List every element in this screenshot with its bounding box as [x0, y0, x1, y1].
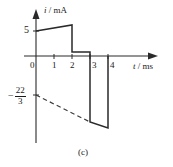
- x-tick-label-0: 0: [30, 61, 35, 70]
- fraction: 22 3: [15, 86, 26, 106]
- y-axis-label-sep: /: [47, 5, 54, 15]
- minus-sign: −: [8, 91, 14, 101]
- y-axis-label-unit: mA: [54, 5, 68, 15]
- fraction-denominator: 3: [17, 97, 24, 106]
- figure-caption: (c): [78, 148, 88, 157]
- y-tick-label-negative-22-over-3: − 22 3: [8, 86, 26, 106]
- asymptote-dashed-line: [36, 95, 90, 122]
- y-axis-label: i / mA: [44, 6, 67, 15]
- figure-container: i / mA t / ms 5 0 1 2 3 4 − 22 3 (c): [0, 0, 173, 167]
- x-axis: [24, 52, 158, 59]
- x-tick-label-1: 1: [52, 61, 57, 70]
- y-tick-label-5: 5: [24, 25, 29, 35]
- x-tick-label-4: 4: [110, 61, 115, 70]
- fraction-numerator: 22: [15, 86, 26, 95]
- x-tick-label-3: 3: [92, 61, 97, 70]
- x-axis-label-sep: /: [136, 61, 143, 71]
- x-tick-label-2: 2: [70, 61, 75, 70]
- y-axis: [33, 9, 40, 143]
- x-axis-label: t / ms: [133, 62, 153, 71]
- x-axis-label-unit: ms: [143, 61, 154, 71]
